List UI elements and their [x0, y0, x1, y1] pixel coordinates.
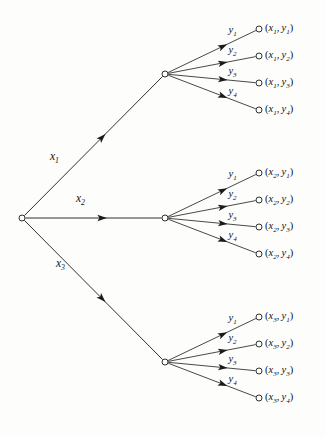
leaf-node-x3-y2	[256, 341, 262, 347]
leaf-label-x1-y4: (x1, y4)	[265, 104, 293, 117]
branch-label-x3-y2: y2	[228, 333, 236, 346]
leaf-label-x3-y2: (x3, y2)	[265, 338, 293, 351]
stage2-branch-x1-y2	[168, 57, 255, 74]
stage2-branch-x1-y4	[168, 75, 256, 109]
leaf-node-x2-y1	[256, 170, 262, 176]
branch-label-x2-y4: y4	[229, 230, 237, 243]
stage2-branch-x2-y1	[168, 174, 256, 216]
leaf-node-x2-y3	[256, 224, 262, 230]
leaf-label-x2-y2: (x2, y2)	[265, 194, 293, 207]
stage2-branch-x2-y3	[168, 218, 255, 226]
leaf-label-x2-y4: (x2, y4)	[265, 248, 293, 261]
edge-label-x2: x2	[76, 193, 85, 207]
leaf-label-x1-y2: (x1, y2)	[265, 50, 293, 63]
branch-label-x3-y3: y3	[228, 354, 236, 367]
stage2-arrow-x2-y1	[217, 188, 227, 195]
branch-label-x2-y1: y1	[229, 169, 237, 182]
leaf-label-x3-y1: (x3, y1)	[265, 311, 293, 324]
stage1-edge-x1	[24, 76, 162, 215]
leaf-node-x2-y2	[256, 197, 262, 203]
branch-label-x2-y3: y3	[228, 210, 236, 223]
stage1-node-x3	[162, 359, 168, 365]
leaf-node-x1-y4	[256, 107, 262, 113]
stage2-branch-x1-y3	[168, 74, 255, 82]
stage2-branch-x2-y2	[168, 201, 255, 218]
leaf-node-x1-y3	[256, 80, 262, 86]
leaf-node-x1-y1	[256, 26, 262, 32]
stage1-node-x1	[162, 71, 168, 77]
stage2-arrow-x3-y1	[217, 332, 227, 339]
branch-label-x1-y2: y2	[228, 45, 236, 58]
leaf-node-x3-y3	[256, 368, 262, 374]
branch-label-x1-y3: y3	[228, 66, 236, 79]
stage2-branch-x3-y1	[168, 318, 256, 360]
leaf-label-x3-y3: (x3, y3)	[265, 365, 293, 378]
leaf-node-x3-y1	[256, 314, 262, 320]
stage2-branch-x1-y1	[168, 30, 256, 72]
branch-label-x3-y1: y1	[229, 313, 237, 326]
stage2-arrow-x1-y1	[217, 44, 227, 51]
stage1-node-x2	[162, 215, 168, 221]
leaf-node-x3-y4	[256, 395, 262, 401]
stage2-branch-x2-y4	[168, 219, 256, 253]
branch-label-x1-y4: y4	[229, 86, 237, 99]
stage1-edge-x3	[24, 220, 162, 359]
leaf-label-x2-y3: (x2, y3)	[265, 221, 293, 234]
branch-label-x1-y1: y1	[229, 25, 237, 38]
branch-label-x3-y4: y4	[229, 374, 237, 387]
leaf-label-x1-y3: (x1, y3)	[265, 77, 293, 90]
branch-label-x2-y2: y2	[228, 189, 236, 202]
leaf-node-x1-y2	[256, 53, 262, 59]
tree-diagram-figure: x1 x2 x3 y1(x1, y1)y2(x1, y2)y3(x1, y3)y…	[0, 0, 325, 437]
stage2-branch-x3-y2	[168, 345, 255, 362]
edge-label-x3: x3	[56, 258, 65, 272]
stage2-branch-x3-y4	[168, 363, 256, 397]
leaf-label-x3-y4: (x3, y4)	[265, 392, 293, 405]
leaf-node-x2-y4	[256, 251, 262, 257]
leaf-label-x2-y1: (x2, y1)	[265, 167, 293, 180]
stage2-branch-x3-y3	[168, 362, 255, 370]
edge-label-x1: x1	[50, 151, 59, 165]
leaf-label-x1-y1: (x1, y1)	[265, 23, 293, 36]
root-node	[19, 215, 25, 221]
